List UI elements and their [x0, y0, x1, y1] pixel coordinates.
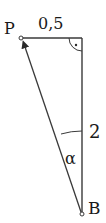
hypotenuse-arrow: [25, 47, 81, 212]
point-p-dot: [19, 36, 23, 40]
label-p: P: [4, 19, 15, 38]
angle-alpha-arc: [61, 131, 82, 134]
label-top-length: 0,5: [38, 14, 63, 33]
label-right-length: 2: [89, 121, 100, 142]
label-alpha: α: [65, 149, 76, 168]
triangle-diagram: P 0,5 2 α B: [0, 0, 106, 223]
right-angle-dot: [75, 44, 77, 46]
label-b: B: [88, 198, 101, 218]
point-b-dot: [80, 212, 84, 216]
